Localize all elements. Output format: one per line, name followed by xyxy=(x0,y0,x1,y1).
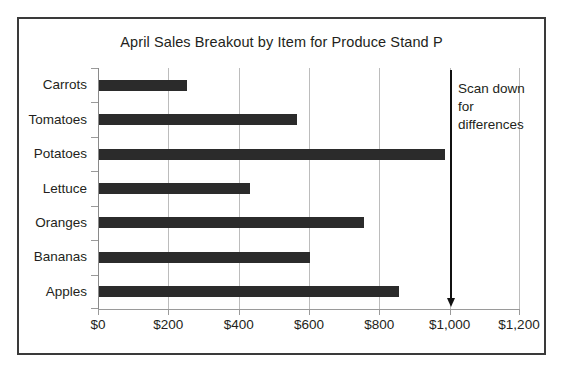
y-axis-tick xyxy=(91,275,98,276)
x-axis-label-400: $400 xyxy=(224,318,254,332)
y-axis-tick xyxy=(91,206,98,207)
bar-potatoes xyxy=(99,149,445,160)
bar-tomatoes xyxy=(99,114,297,125)
x-axis-tick xyxy=(450,309,451,315)
chart-title: April Sales Breakout by Item for Produce… xyxy=(19,34,544,50)
x-axis-tick xyxy=(98,309,99,315)
x-axis-label-800: $800 xyxy=(364,318,394,332)
gridline-800 xyxy=(379,68,380,309)
gridline-600 xyxy=(309,68,310,309)
x-axis-tick xyxy=(309,309,310,315)
scan-down-annotation-text: Scan down for differences xyxy=(458,80,528,133)
category-label-tomatoes: Tomatoes xyxy=(28,113,87,127)
y-axis-tick xyxy=(91,171,98,172)
chart-frame: April Sales Breakout by Item for Produce… xyxy=(17,17,546,355)
category-label-potatoes: Potatoes xyxy=(34,147,87,161)
category-label-bananas: Bananas xyxy=(34,251,87,265)
scan-down-arrow-icon xyxy=(450,70,451,307)
y-axis-tick xyxy=(91,102,98,103)
arrow-shaft xyxy=(450,70,452,299)
x-axis-tick xyxy=(239,309,240,315)
x-axis-label-0: $0 xyxy=(90,318,105,332)
x-axis-tick xyxy=(379,309,380,315)
x-axis-label-1200: $1,200 xyxy=(498,318,539,332)
arrow-head xyxy=(447,298,455,307)
bar-lettuce xyxy=(99,183,250,194)
x-axis-label-1000: $1,000 xyxy=(429,318,470,332)
category-label-oranges: Oranges xyxy=(35,216,87,230)
x-axis-tick xyxy=(168,309,169,315)
x-axis-label-200: $200 xyxy=(153,318,183,332)
x-axis-tick xyxy=(519,309,520,315)
y-axis-tick xyxy=(91,240,98,241)
plot-area: Carrots Tomatoes Potatoes Lettuce Orange… xyxy=(98,68,520,309)
category-label-apples: Apples xyxy=(46,285,87,299)
bar-carrots xyxy=(99,80,187,91)
category-label-lettuce: Lettuce xyxy=(43,182,87,196)
y-axis-tick xyxy=(91,308,98,309)
bar-apples xyxy=(99,286,399,297)
bar-oranges xyxy=(99,217,364,228)
y-axis-tick xyxy=(91,137,98,138)
bar-bananas xyxy=(99,252,310,263)
x-axis-label-600: $600 xyxy=(294,318,324,332)
category-label-carrots: Carrots xyxy=(43,78,87,92)
y-axis-tick xyxy=(91,68,98,69)
